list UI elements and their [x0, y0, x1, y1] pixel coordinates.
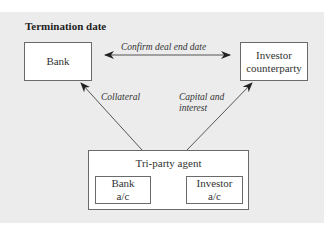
collateral-label: Collateral — [101, 92, 140, 103]
investor-label-line2: counterparty — [246, 62, 302, 75]
bank-ac-line1: Bank — [111, 177, 134, 190]
investor-ac-line1: Investor — [196, 177, 232, 190]
investor-counterparty-node: Investor counterparty — [240, 42, 308, 81]
tri-party-label: Tri-party agent — [89, 157, 248, 170]
bank-label: Bank — [46, 55, 69, 68]
capital-label-line2: interest — [179, 103, 207, 114]
confirm-label: Confirm deal end date — [121, 42, 206, 53]
bank-ac-line2: a/c — [117, 190, 130, 203]
bank-ac-node: Bank a/c — [95, 176, 151, 204]
investor-ac-node: Investor a/c — [186, 176, 243, 204]
investor-ac-line2: a/c — [208, 190, 221, 203]
capital-label-line1: Capital and — [179, 92, 224, 103]
bank-node: Bank — [24, 42, 92, 81]
investor-label-line1: Investor — [256, 49, 292, 62]
